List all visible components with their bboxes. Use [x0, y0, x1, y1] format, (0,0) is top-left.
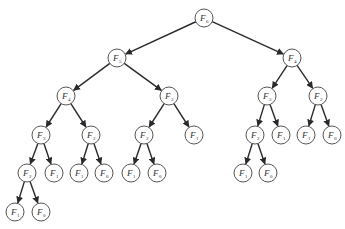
tree-node: F5 [108, 49, 126, 67]
tree-node: F1 [6, 203, 24, 221]
arrow-edge [30, 181, 38, 203]
tree-node: F4 [283, 49, 301, 67]
arrow-edge [124, 63, 161, 90]
tree-node: F1 [45, 164, 63, 182]
tree-node: F3 [32, 126, 50, 144]
tree-node: F1 [70, 164, 88, 182]
tree-node: F2 [309, 87, 327, 105]
tree-node: F1 [122, 164, 140, 182]
tree-node: F0 [259, 164, 277, 182]
tree-node: F0 [323, 126, 341, 144]
arrow-edge [246, 144, 252, 164]
node-layer: F6F5F4F4F3F3F2F3F2F2F1F2F1F1F0F2F1F1F0F1… [6, 9, 341, 221]
tree-node: F1 [185, 126, 203, 144]
arrow-edge [82, 144, 88, 164]
tree-node: F4 [57, 87, 75, 105]
arrow-edge [297, 65, 313, 88]
arrow-edge [258, 105, 265, 126]
tree-node: F3 [160, 87, 178, 105]
tree-node: F0 [148, 164, 166, 182]
tree-node: F0 [95, 164, 113, 182]
tree-node: F1 [272, 126, 290, 144]
arrow-edge [149, 104, 164, 127]
tree-node: F2 [135, 126, 153, 144]
tree-node: F2 [82, 126, 100, 144]
arrow-edge [71, 104, 86, 127]
tree-node: F3 [258, 87, 276, 105]
arrow-edge [272, 66, 287, 89]
tree-node: F6 [195, 9, 213, 27]
arrow-edge [174, 104, 189, 127]
arrow-edge [74, 63, 110, 90]
tree-node: F2 [246, 126, 264, 144]
tree-node: F1 [297, 126, 315, 144]
arrow-edge [134, 144, 141, 164]
arrow-edge [46, 104, 61, 127]
arrow-edge [270, 104, 278, 126]
fibonacci-recursion-tree: F6F5F4F4F3F3F2F3F2F2F1F2F1F1F0F2F1F1F0F1… [0, 0, 345, 229]
arrow-edge [321, 104, 329, 126]
tree-node: F0 [32, 203, 50, 221]
arrow-edge [212, 22, 283, 54]
arrow-edge [30, 143, 38, 164]
arrow-edge [44, 144, 51, 164]
arrow-edge [258, 144, 265, 164]
arrow-edge [126, 22, 196, 54]
edge-layer [18, 22, 329, 203]
tree-node: F2 [18, 164, 36, 182]
arrow-edge [94, 144, 101, 164]
arrow-edge [309, 105, 316, 126]
tree-node: F1 [234, 164, 252, 182]
arrow-edge [18, 182, 25, 203]
arrow-edge [147, 144, 154, 164]
